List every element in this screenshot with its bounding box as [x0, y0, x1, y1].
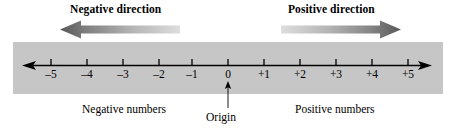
- positive-direction-arrow-icon: [281, 20, 401, 39]
- tick-label-minus4: –4: [72, 68, 102, 81]
- origin-caption: Origin: [206, 110, 236, 124]
- positive-direction-heading: Positive direction: [288, 3, 375, 16]
- tick-label-zero: 0: [213, 68, 243, 81]
- tick-label-minus1: –1: [177, 68, 207, 81]
- tick-label-minus3: –3: [108, 68, 138, 81]
- negative-numbers-caption: Negative numbers: [82, 102, 166, 116]
- number-line-figure: Negative direction Positive direction: [0, 0, 454, 129]
- tick-label-plus2: +2: [285, 68, 315, 81]
- positive-numbers-caption: Positive numbers: [295, 102, 375, 116]
- tick-label-minus2: –2: [144, 68, 174, 81]
- negative-direction-arrow-icon: [60, 20, 180, 39]
- tick-label-plus1: +1: [249, 68, 279, 81]
- tick-label-minus5: –5: [36, 68, 66, 81]
- tick-label-plus5: +5: [393, 68, 423, 81]
- tick-label-plus3: +3: [321, 68, 351, 81]
- negative-direction-heading: Negative direction: [70, 3, 161, 16]
- tick-label-plus4: +4: [357, 68, 387, 81]
